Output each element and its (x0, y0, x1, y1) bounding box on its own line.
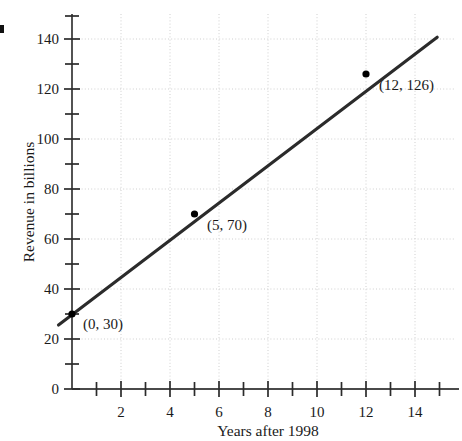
revenue-line-chart: 0 20 40 60 80 100 120 140 (0, 0, 462, 441)
x-tick-label-12: 12 (359, 404, 374, 420)
chart-figure: 0 20 40 60 80 100 120 140 (0, 0, 462, 441)
y-tick-label-140: 140 (37, 31, 60, 47)
data-point-12-126 (362, 70, 369, 77)
y-tick-label-60: 60 (44, 231, 59, 247)
x-tick-label-8: 8 (264, 404, 272, 420)
data-point-5-70 (191, 210, 198, 217)
x-tick-label-10: 10 (310, 404, 325, 420)
y-tick-label-120: 120 (37, 81, 60, 97)
y-tick-label-20: 20 (44, 331, 59, 347)
edge-mark-icon (0, 25, 4, 33)
y-tick-label-80: 80 (44, 181, 59, 197)
y-tick-label-0: 0 (52, 381, 60, 397)
x-tick-label-2: 2 (117, 404, 125, 420)
x-tick-label-4: 4 (166, 404, 174, 420)
y-tick-label-40: 40 (44, 281, 59, 297)
x-tick-label-6: 6 (215, 404, 223, 420)
data-point-label-0-30: (0, 30) (83, 316, 123, 333)
data-point-label-5-70: (5, 70) (207, 217, 247, 234)
data-point-0-30 (68, 310, 75, 317)
data-point-label-12-126: (12, 126) (379, 77, 434, 94)
x-tick-label-14: 14 (408, 404, 424, 420)
y-tick-label-100: 100 (37, 131, 60, 147)
y-axis-title: Revenue in billions (20, 142, 37, 263)
x-axis-title: Years after 1998 (217, 422, 319, 439)
